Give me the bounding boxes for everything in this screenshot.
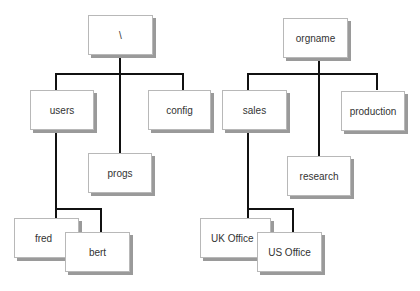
node-label: research — [300, 171, 339, 182]
connector — [247, 208, 294, 210]
connector — [100, 208, 102, 232]
node-label: UK Office — [211, 233, 254, 244]
connector — [119, 54, 121, 153]
node-production[interactable]: production — [341, 91, 405, 131]
connector — [318, 57, 320, 156]
connector — [247, 73, 249, 90]
connector — [182, 73, 184, 90]
node-progs[interactable]: progs — [88, 153, 152, 193]
connector — [247, 130, 249, 218]
connector — [55, 208, 102, 210]
connector — [55, 73, 57, 90]
node-label: production — [350, 106, 397, 117]
node-label: config — [166, 105, 193, 116]
node-config[interactable]: config — [148, 90, 211, 130]
connector — [376, 73, 378, 90]
node-label: users — [50, 105, 74, 116]
node-label: \ — [119, 30, 122, 41]
node-label: US Office — [268, 247, 311, 258]
diagram-canvas: \ users config progs fred bert orgname s… — [0, 0, 420, 291]
node-root-backslash[interactable]: \ — [88, 15, 153, 55]
connector — [55, 73, 184, 75]
node-us-office[interactable]: US Office — [257, 232, 322, 272]
node-label: sales — [243, 105, 266, 116]
node-orgname[interactable]: orgname — [283, 18, 348, 58]
connector — [55, 130, 57, 218]
node-label: fred — [35, 233, 52, 244]
node-sales[interactable]: sales — [222, 90, 287, 130]
node-research[interactable]: research — [287, 156, 351, 196]
node-label: orgname — [296, 33, 335, 44]
node-users[interactable]: users — [30, 90, 94, 130]
node-bert[interactable]: bert — [65, 232, 130, 272]
node-label: bert — [89, 247, 106, 258]
connector — [292, 208, 294, 232]
node-label: progs — [107, 168, 132, 179]
connector — [247, 73, 378, 75]
